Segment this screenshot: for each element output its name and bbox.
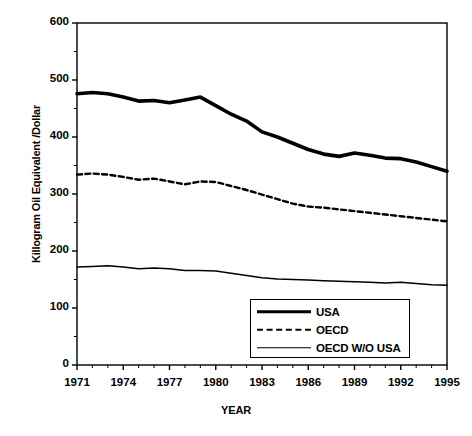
legend-label-oecd-wo-usa: OECD W/O USA <box>316 342 401 354</box>
x-axis-tick-label: 1971 <box>54 376 100 388</box>
x-axis-title: YEAR <box>0 404 472 416</box>
y-axis-tick-label: 400 <box>25 129 69 141</box>
chart-series <box>77 93 447 286</box>
legend-label-usa: USA <box>316 306 340 318</box>
x-axis-tick-label: 1974 <box>100 376 146 388</box>
legend-swatch-oecd-icon <box>257 326 311 334</box>
legend-swatch-usa-icon <box>257 308 311 316</box>
y-axis-tick-label: 500 <box>25 72 69 84</box>
x-axis-tick-label: 1980 <box>193 376 239 388</box>
y-axis-tick-label: 100 <box>25 300 69 312</box>
x-axis-tick-label: 1977 <box>147 376 193 388</box>
legend-item-oecd-wo-usa: OECD W/O USA <box>257 339 401 356</box>
x-axis-tick-label: 1986 <box>285 376 331 388</box>
chart-legend: USA OECD OECD W/O USA <box>250 299 410 358</box>
x-axis-tick-label: 1995 <box>424 376 470 388</box>
y-axis-tick-label: 300 <box>25 186 69 198</box>
legend-label-oecd: OECD <box>316 324 348 336</box>
y-axis-tick-label: 0 <box>25 357 69 369</box>
chart-figure: Killogram Oil Equivalent /Dollar YEAR 01… <box>0 0 472 436</box>
legend-item-usa: USA <box>257 303 340 320</box>
line-chart-plot <box>0 0 472 436</box>
legend-swatch-oecd-wo-usa-icon <box>257 344 311 352</box>
y-axis-tick-label: 600 <box>25 15 69 27</box>
x-axis-tick-label: 1983 <box>239 376 285 388</box>
y-axis-tick-label: 200 <box>25 243 69 255</box>
legend-item-oecd: OECD <box>257 321 348 338</box>
x-axis-tick-label: 1992 <box>378 376 424 388</box>
y-axis-title: Killogram Oil Equivalent /Dollar <box>30 64 42 304</box>
x-axis-tick-label: 1989 <box>332 376 378 388</box>
